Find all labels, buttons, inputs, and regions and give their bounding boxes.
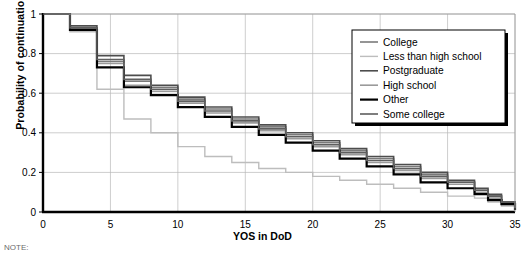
legend: CollegeLess than high schoolPostgraduate… [352, 30, 508, 126]
legend-label-college: College [383, 37, 418, 48]
x-tick-label: 30 [442, 219, 454, 230]
y-axis-label: Probability of continuation [14, 0, 26, 142]
legend-label-other: Other [383, 94, 409, 105]
x-tick-label: 20 [307, 219, 319, 230]
legend-label-less-than-high-school: Less than high school [383, 51, 482, 62]
y-tick-label: 0 [30, 207, 36, 218]
x-tick-label: 0 [40, 219, 46, 230]
x-axis-label: YOS in DoD [0, 230, 525, 242]
y-tick-label: 1 [30, 9, 36, 20]
legend-label-postgraduate: Postgraduate [383, 65, 444, 76]
plot-area: 00.20.40.60.8105101520253035CollegeLess … [0, 0, 525, 256]
figure-note: NOTE: [4, 243, 204, 254]
legend-label-some-college: Some college [383, 109, 445, 120]
chart-figure: 00.20.40.60.8105101520253035CollegeLess … [0, 0, 525, 256]
x-tick-label: 35 [509, 219, 521, 230]
x-tick-label: 10 [172, 219, 184, 230]
legend-label-high-school: High school [383, 80, 436, 91]
x-tick-label: 25 [375, 219, 387, 230]
y-tick-label: 0.2 [22, 167, 36, 178]
x-tick-label: 15 [240, 219, 252, 230]
x-tick-label: 5 [108, 219, 114, 230]
